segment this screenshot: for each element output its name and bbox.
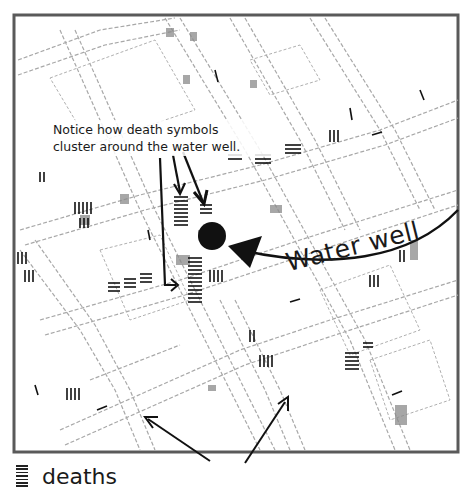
annotation-line-2: cluster around the water well. xyxy=(53,138,273,155)
snow-cholera-map-figure: Notice how death symbols cluster around … xyxy=(0,0,470,498)
legend: deaths xyxy=(16,460,117,492)
legend-label: deaths xyxy=(42,464,117,489)
annotation-note: Notice how death symbols cluster around … xyxy=(50,120,276,156)
water-well-marker xyxy=(198,222,226,250)
death-tally-marks-icon xyxy=(16,465,28,487)
annotation-line-1: Notice how death symbols xyxy=(53,121,273,138)
